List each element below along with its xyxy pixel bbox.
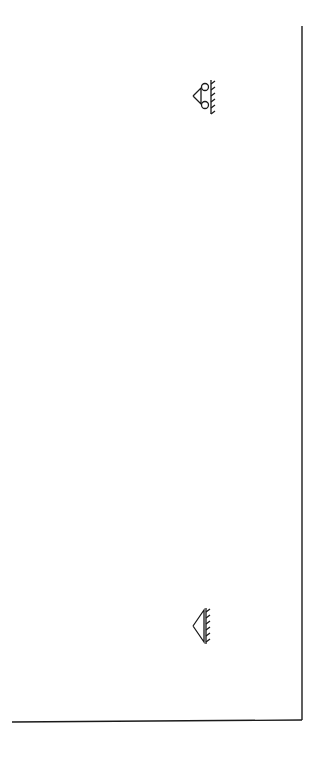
pin-support xyxy=(193,608,210,644)
axes xyxy=(12,26,302,722)
y-axis-line xyxy=(12,720,302,722)
supports xyxy=(193,80,215,644)
truss-diagram xyxy=(0,0,324,764)
roller-support xyxy=(193,80,215,114)
